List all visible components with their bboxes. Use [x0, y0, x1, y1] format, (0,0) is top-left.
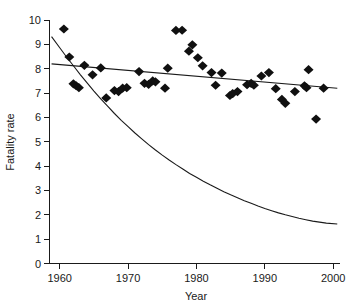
- plot-area: 012345678910 19601970198019902000 Year F…: [0, 0, 361, 308]
- data-point-marker: [319, 84, 329, 93]
- y-tick-label: 3: [35, 184, 41, 196]
- x-tick-label: 1990: [253, 272, 277, 284]
- y-axis-group: 012345678910: [29, 14, 50, 270]
- data-point-marker: [163, 64, 173, 73]
- x-tick-label: 1960: [48, 272, 72, 284]
- x-tick-label: 1970: [116, 272, 140, 284]
- data-point-marker: [193, 53, 203, 62]
- x-axis-group: 19601970198019902000: [48, 264, 346, 285]
- y-tick-label: 2: [35, 209, 41, 221]
- data-point-marker: [134, 67, 144, 76]
- fatality-rate-scatter-chart: 012345678910 19601970198019902000 Year F…: [0, 0, 361, 308]
- data-point-marker: [79, 61, 89, 70]
- data-point-marker: [177, 26, 187, 35]
- data-point-marker: [217, 68, 227, 77]
- data-point-marker: [160, 84, 170, 93]
- x-tick-label: 1980: [184, 272, 208, 284]
- data-point-marker: [211, 81, 221, 90]
- data-point-marker: [290, 87, 300, 96]
- data-point-marker: [304, 65, 314, 74]
- data-point-marker: [311, 115, 321, 124]
- y-tick-label: 8: [35, 63, 41, 75]
- data-point-marker: [64, 52, 74, 61]
- x-axis-title: Year: [185, 290, 208, 302]
- exponential-decay-curve: [52, 37, 338, 224]
- data-point-marker: [88, 70, 98, 79]
- y-tick-label: 0: [35, 258, 41, 270]
- data-point-marker: [206, 68, 216, 77]
- x-tick-label: 2000: [321, 272, 345, 284]
- data-point-marker: [59, 24, 69, 33]
- y-tick-label: 5: [35, 136, 41, 148]
- data-point-marker: [198, 61, 208, 70]
- data-point-group: [59, 24, 329, 123]
- y-tick-label: 7: [35, 87, 41, 99]
- y-tick-label: 10: [29, 14, 41, 26]
- x-tick-group: 19601970198019902000: [48, 264, 346, 285]
- y-axis-title: Fatality rate: [4, 113, 16, 170]
- y-tick-label: 1: [35, 233, 41, 245]
- y-tick-label: 9: [35, 38, 41, 50]
- data-point-marker: [96, 63, 106, 72]
- y-tick-group: 012345678910: [29, 14, 50, 270]
- y-tick-label: 6: [35, 111, 41, 123]
- data-point-marker: [271, 84, 281, 93]
- y-tick-label: 4: [35, 160, 41, 172]
